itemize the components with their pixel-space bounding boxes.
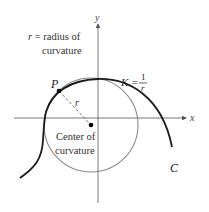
curvature-formula-numerator: 1 [141, 72, 146, 82]
y-axis-label: y [94, 12, 100, 23]
center-point [89, 123, 94, 128]
radius-definition-line2: curvature [42, 45, 82, 56]
curvature-formula-lhs: K = [120, 76, 139, 88]
radius-definition: r = radius of [28, 31, 81, 42]
curvature-diagram: x y P r r = radius of curvature Center o… [0, 0, 209, 212]
center-label-line2: curvature [55, 145, 95, 156]
curve-c-label: C [170, 161, 179, 175]
x-axis-label: x [189, 112, 195, 123]
point-p-label: P [50, 77, 59, 91]
radius-r-label: r [75, 97, 79, 108]
center-label-line1: Center of [56, 131, 96, 142]
curve-c [20, 79, 172, 178]
curvature-formula-denominator: r [141, 83, 145, 93]
